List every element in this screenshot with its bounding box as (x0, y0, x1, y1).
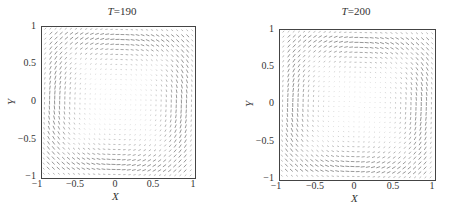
plot-panel-t200: T=200 1 0.5 0 −0.5 −1 −1 −0.5 0 0.5 1 Y … (228, 0, 456, 214)
y-tick: −0.5 (8, 133, 36, 144)
x-tick: 0.5 (378, 180, 408, 191)
y-tick: 0.5 (246, 60, 274, 71)
y-axis-label: Y (5, 99, 17, 105)
x-tick: 0.5 (138, 178, 168, 189)
y-axis-label: Y (243, 101, 255, 107)
x-tick: 1 (178, 178, 208, 189)
y-tick: 1 (246, 23, 274, 34)
y-tick: 1 (8, 20, 36, 31)
x-tick: 0 (339, 180, 369, 191)
x-axis-label: X (351, 192, 358, 204)
x-tick: −1 (261, 180, 291, 191)
x-tick: 1 (417, 180, 447, 191)
x-tick: 0 (100, 178, 130, 189)
y-tick: 0.5 (8, 57, 36, 68)
x-tick: −1 (22, 178, 52, 189)
plot-panel-t190: T=190 1 0.5 0 −0.5 −1 −1 −0.5 0 0.5 1 Y … (0, 0, 228, 214)
y-tick: −0.5 (246, 135, 274, 146)
x-tick: −0.5 (60, 178, 90, 189)
x-tick: −0.5 (300, 180, 330, 191)
x-axis-label: X (112, 190, 119, 202)
